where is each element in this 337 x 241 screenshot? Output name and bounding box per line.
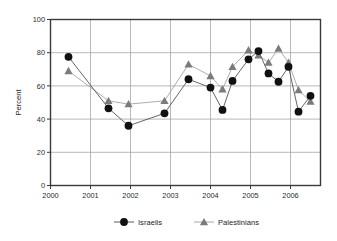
gridlines-group (51, 20, 321, 186)
data-point-palestinians (64, 67, 72, 74)
x-tick-label: 2002 (122, 191, 138, 200)
data-point-palestinians (184, 60, 192, 67)
x-tick-label: 2004 (202, 191, 218, 200)
triangle-marker-icon (200, 218, 208, 225)
data-point-israelis (265, 70, 273, 78)
y-axis-title: Percent (14, 89, 23, 116)
y-tick-label: 0 (41, 181, 45, 190)
x-tick-label: 2000 (42, 191, 58, 200)
data-point-israelis (161, 109, 169, 117)
data-point-palestinians (264, 59, 272, 66)
data-point-israelis (245, 55, 253, 63)
y-tick-label: 80 (37, 48, 45, 57)
y-tick-label: 100 (33, 15, 45, 24)
data-point-israelis (285, 63, 293, 71)
y-tick-label: 20 (37, 148, 45, 157)
data-point-palestinians (294, 86, 302, 93)
chart-container: 0204060801002000200120022003200420052006… (0, 0, 337, 241)
x-axis-ticks: 2000200120022003200420052006 (42, 186, 298, 201)
data-point-israelis (65, 53, 73, 61)
data-point-palestinians (206, 72, 214, 79)
series-markers-israelis (65, 47, 315, 130)
data-point-israelis (125, 122, 133, 130)
data-point-palestinians (104, 97, 112, 104)
data-point-israelis (307, 92, 315, 100)
x-tick-label: 2006 (282, 191, 298, 200)
data-point-palestinians (244, 46, 252, 53)
legend-label-israelis: Israelis (138, 218, 162, 227)
legend-label-palestinians: Palestinians (218, 218, 259, 227)
y-tick-label: 60 (37, 82, 45, 91)
x-tick-label: 2001 (82, 191, 98, 200)
x-tick-label: 2003 (162, 191, 178, 200)
data-point-israelis (229, 77, 237, 85)
circle-marker-icon (120, 218, 128, 226)
data-point-palestinians (274, 44, 282, 51)
data-point-israelis (219, 106, 227, 114)
data-point-israelis (255, 47, 263, 55)
x-tick-label: 2005 (242, 191, 258, 200)
data-point-israelis (275, 78, 283, 86)
y-tick-label: 40 (37, 115, 45, 124)
data-point-israelis (295, 108, 303, 116)
plot-frame (51, 20, 321, 186)
legend: IsraelisPalestinians (114, 218, 259, 227)
line-chart: 0204060801002000200120022003200420052006… (0, 0, 337, 241)
data-point-israelis (185, 75, 193, 83)
data-point-israelis (207, 84, 215, 92)
y-axis-ticks: 020406080100 (33, 15, 51, 190)
data-point-israelis (105, 104, 113, 112)
data-point-palestinians (160, 97, 168, 104)
plot-border (51, 20, 321, 186)
